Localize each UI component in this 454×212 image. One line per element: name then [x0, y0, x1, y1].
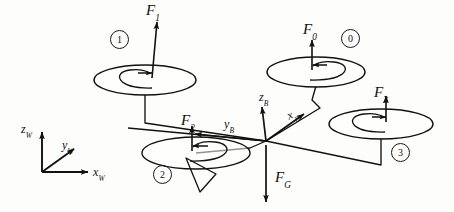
body-axis-z [262, 107, 266, 141]
world-axis-label-x: xW [93, 166, 105, 181]
arm-rotor-3 [266, 138, 381, 165]
rotor-0-disc [267, 57, 365, 87]
rotor-3-disc [329, 109, 433, 139]
world-axis-label-y: yW [62, 139, 74, 154]
rotor-1-disc [94, 65, 196, 95]
force-label-rotor-2: F2 [181, 113, 195, 131]
gravity-force-label: FG [275, 170, 291, 188]
quadrotor-force-diagram: F1 F0 F3 F2 FG zB yB xB zW yW xW 1 0 3 [0, 0, 454, 212]
rotor-badge-1: 1 [110, 30, 129, 49]
body-axis-label-z: zB [259, 91, 268, 106]
rotor-badge-2: 2 [153, 165, 172, 184]
rotor-badge-0: 0 [341, 29, 360, 48]
force-label-rotor-1: F1 [146, 3, 160, 21]
diagram-canvas [0, 0, 454, 212]
world-axis-label-z: zW [21, 123, 32, 138]
rotor-1-group [94, 22, 196, 95]
rotor-2-disc [142, 137, 250, 169]
arm-rotor-1 [145, 94, 266, 141]
force-label-rotor-0: F0 [303, 22, 317, 40]
rotor-badge-3: 3 [391, 143, 410, 162]
force-label-rotor-3: F3 [374, 85, 388, 103]
body-axis-label-y: yB [224, 118, 234, 133]
